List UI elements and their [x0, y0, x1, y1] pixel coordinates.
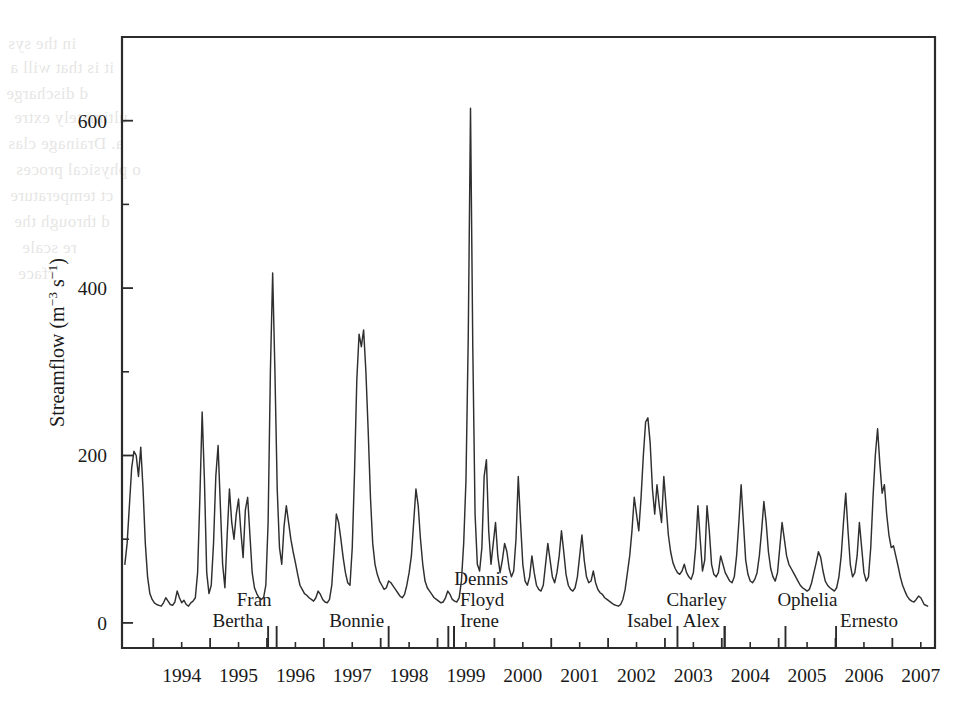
event-label-bertha: Bertha — [212, 610, 263, 631]
x-tick-label: 1998 — [390, 665, 429, 686]
x-tick-label: 1999 — [446, 665, 485, 686]
event-label-irene: Irene — [460, 610, 499, 631]
x-tick-label: 2004 — [731, 665, 770, 686]
y-axis-title-text: Streamflow (m−3 s−1) — [45, 258, 69, 427]
event-label-ernesto: Ernesto — [840, 610, 898, 631]
y-tick-label: 200 — [78, 445, 107, 466]
x-tick-label: 1996 — [276, 665, 315, 686]
streamflow-series — [125, 108, 928, 606]
streamflow-figure: in the sysit is that will ad dischargeul… — [0, 0, 971, 719]
event-label-alex: Alex — [683, 610, 720, 631]
x-tick-label: 2001 — [560, 665, 599, 686]
streamflow-line — [125, 108, 928, 606]
x-tick-label: 2003 — [674, 665, 713, 686]
x-tick-label: 2005 — [788, 665, 827, 686]
y-tick-label: 0 — [97, 613, 107, 634]
y-axis-tick-labels: 0200400600 — [78, 111, 107, 634]
y-axis-title: Streamflow (m−3 s−1) — [45, 258, 69, 427]
event-label-bonnie: Bonnie — [329, 610, 384, 631]
streamflow-chart: 0200400600 19941995199619971998199920002… — [0, 0, 971, 719]
y-axis-ticks — [122, 121, 133, 623]
plot-frame — [122, 37, 935, 648]
event-label-charley: Charley — [666, 589, 727, 610]
x-tick-label: 2007 — [901, 665, 940, 686]
x-tick-label: 2000 — [503, 665, 542, 686]
y-tick-label: 400 — [78, 278, 107, 299]
x-tick-label: 1994 — [162, 665, 201, 686]
event-label-ophelia: Ophelia — [777, 589, 838, 610]
x-tick-label: 1997 — [333, 665, 372, 686]
x-tick-label: 2006 — [844, 665, 883, 686]
x-axis-tick-labels: 1994199519961997199819992000200120022003… — [162, 665, 940, 686]
x-tick-label: 2002 — [617, 665, 656, 686]
x-tick-label: 1995 — [219, 665, 258, 686]
event-label-isabel: Isabel — [627, 610, 672, 631]
event-label-fran: Fran — [237, 589, 272, 610]
event-label-floyd: Floyd — [460, 589, 505, 610]
y-tick-label: 600 — [78, 111, 107, 132]
